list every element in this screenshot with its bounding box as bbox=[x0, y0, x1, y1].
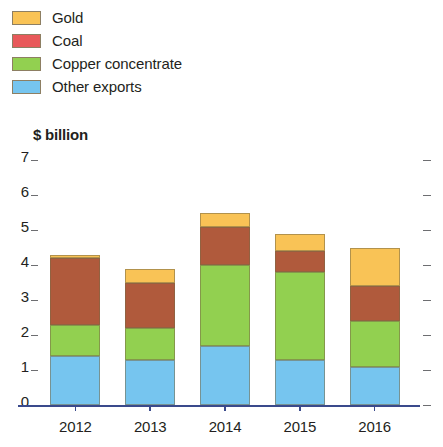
x-axis-label-2016: 2016 bbox=[345, 418, 405, 435]
y-axis-tick-label-6: 6 bbox=[21, 184, 29, 200]
y-axis-tick-label-4: 4 bbox=[21, 254, 29, 270]
y-axis-tick-dash-2 bbox=[31, 335, 38, 336]
y-axis-tick-dash-1 bbox=[31, 370, 38, 371]
y-axis-right-dash-1 bbox=[423, 370, 431, 371]
bar-2013[interactable] bbox=[125, 269, 175, 406]
stacked-bar-chart: 7654321020122013201420152016 bbox=[0, 0, 443, 447]
y-axis-tick-dash-5 bbox=[31, 230, 38, 231]
y-axis-tick-label-3: 3 bbox=[21, 289, 29, 305]
x-axis-tick-2012 bbox=[75, 405, 77, 411]
bar-segment-2014-gold bbox=[200, 213, 250, 227]
y-axis-tick-7: 7 bbox=[8, 149, 38, 165]
y-axis-tick-label-2: 2 bbox=[21, 324, 29, 340]
y-axis-right-dash-4 bbox=[423, 265, 431, 266]
bar-segment-2012-gold bbox=[50, 255, 100, 259]
bar-segment-2016-coal bbox=[350, 286, 400, 321]
x-axis-tick-2013 bbox=[149, 405, 151, 411]
bar-segment-2015-copper-concentrate bbox=[275, 272, 325, 360]
bar-2012[interactable] bbox=[50, 255, 100, 406]
bar-segment-2016-gold bbox=[350, 248, 400, 287]
x-axis-label-2014: 2014 bbox=[195, 418, 255, 435]
bar-segment-2012-copper-concentrate bbox=[50, 325, 100, 357]
y-axis-tick-5: 5 bbox=[8, 219, 38, 235]
x-axis-tick-2016 bbox=[374, 405, 376, 411]
y-axis-tick-label-0: 0 bbox=[21, 394, 29, 410]
bar-2014[interactable] bbox=[200, 213, 250, 406]
bar-segment-2016-copper-concentrate bbox=[350, 321, 400, 367]
bar-segment-2016-other-exports bbox=[350, 367, 400, 406]
bar-segment-2012-other-exports bbox=[50, 356, 100, 405]
bar-segment-2015-other-exports bbox=[275, 360, 325, 406]
y-axis-tick-2: 2 bbox=[8, 324, 38, 340]
x-axis-label-2012: 2012 bbox=[45, 418, 105, 435]
bar-2016[interactable] bbox=[350, 248, 400, 406]
y-axis-tick-dash-3 bbox=[31, 300, 38, 301]
bar-segment-2012-coal bbox=[50, 258, 100, 325]
bar-segment-2013-coal bbox=[125, 283, 175, 329]
y-axis-tick-0: 0 bbox=[8, 394, 38, 410]
y-axis-tick-label-5: 5 bbox=[21, 219, 29, 235]
y-axis-tick-dash-6 bbox=[31, 195, 38, 196]
y-axis-tick-label-1: 1 bbox=[21, 359, 29, 375]
y-axis-right-dash-3 bbox=[423, 300, 431, 301]
bar-segment-2015-coal bbox=[275, 251, 325, 272]
y-axis-tick-6: 6 bbox=[8, 184, 38, 200]
x-axis-tick-2014 bbox=[224, 405, 226, 411]
bar-segment-2014-copper-concentrate bbox=[200, 265, 250, 346]
bar-segment-2013-copper-concentrate bbox=[125, 328, 175, 360]
x-axis-label-2015: 2015 bbox=[270, 418, 330, 435]
bar-segment-2013-other-exports bbox=[125, 360, 175, 406]
y-axis-right-dash-6 bbox=[423, 195, 431, 196]
y-axis-tick-1: 1 bbox=[8, 359, 38, 375]
bar-segment-2014-other-exports bbox=[200, 346, 250, 406]
bar-segment-2013-gold bbox=[125, 269, 175, 283]
bar-segment-2015-gold bbox=[275, 234, 325, 252]
x-axis-label-2013: 2013 bbox=[120, 418, 180, 435]
bar-segment-2014-coal bbox=[200, 227, 250, 266]
y-axis-right-dash-2 bbox=[423, 335, 431, 336]
y-axis-right-dash-5 bbox=[423, 230, 431, 231]
bar-2015[interactable] bbox=[275, 234, 325, 406]
y-axis-tick-4: 4 bbox=[8, 254, 38, 270]
y-axis-tick-3: 3 bbox=[8, 289, 38, 305]
y-axis-right-dash-7 bbox=[423, 160, 431, 161]
y-axis-tick-dash-7 bbox=[31, 160, 38, 161]
y-axis-tick-label-7: 7 bbox=[21, 149, 29, 165]
x-axis-tick-2015 bbox=[299, 405, 301, 411]
y-axis-tick-dash-4 bbox=[31, 265, 38, 266]
y-axis-right-dash-0 bbox=[423, 405, 431, 406]
x-axis-baseline bbox=[18, 405, 420, 407]
